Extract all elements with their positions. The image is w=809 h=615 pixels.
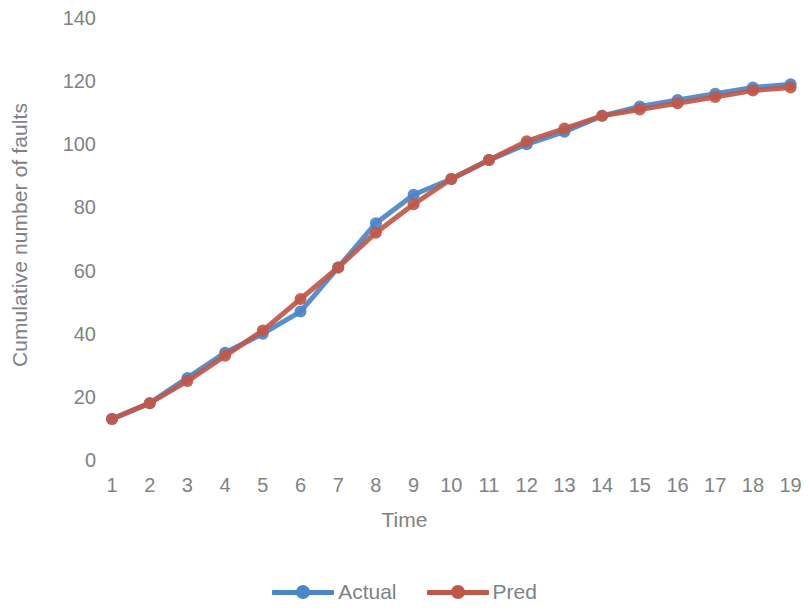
x-axis-tick-label: 18 [742, 474, 764, 497]
data-point-marker [445, 173, 457, 185]
data-point-marker [295, 306, 307, 318]
chart-container: Cumulative number of faults 020406080100… [0, 0, 809, 615]
data-point-marker [219, 350, 231, 362]
data-point-marker [558, 123, 570, 135]
x-axis-tick-label: 6 [295, 474, 306, 497]
legend-item-label: Actual [338, 580, 396, 604]
x-axis-tick-label: 13 [553, 474, 575, 497]
x-axis-title: Time [0, 508, 809, 532]
data-point-marker [144, 397, 156, 409]
x-axis-tick-label: 11 [479, 474, 500, 497]
legend-swatch-icon [427, 584, 489, 600]
x-axis-tick-label: 17 [704, 474, 726, 497]
series-line [112, 87, 791, 419]
x-axis-tick-label: 2 [144, 474, 155, 497]
x-axis-tick-label: 8 [370, 474, 381, 497]
x-axis-tick-label: 5 [257, 474, 268, 497]
data-point-marker [596, 110, 608, 122]
data-point-marker [370, 227, 382, 239]
x-axis-tick-label: 16 [666, 474, 688, 497]
legend-item-label: Pred [493, 580, 537, 604]
x-axis-tick-label: 1 [106, 474, 117, 497]
x-axis-tick-label: 15 [629, 474, 651, 497]
series-actual [106, 78, 797, 425]
x-axis-tick-label: 7 [333, 474, 344, 497]
x-axis-tick-label: 10 [440, 474, 462, 497]
x-axis-tick-label: 14 [591, 474, 613, 497]
chart-legend: ActualPred [0, 580, 809, 604]
legend-item-actual[interactable]: Actual [272, 580, 396, 604]
data-point-marker [709, 91, 721, 103]
data-point-marker [672, 97, 684, 109]
data-point-marker [332, 261, 344, 273]
data-point-marker [634, 104, 646, 116]
data-point-marker [785, 81, 797, 93]
x-axis-tick-label: 19 [779, 474, 801, 497]
series-line [112, 84, 791, 419]
x-axis-tick-label: 12 [516, 474, 538, 497]
data-point-marker [181, 375, 193, 387]
x-axis-tick-label: 9 [408, 474, 419, 497]
legend-item-pred[interactable]: Pred [427, 580, 537, 604]
legend-swatch-icon [272, 584, 334, 600]
series-pred [106, 81, 797, 425]
data-point-marker [295, 293, 307, 305]
data-point-marker [106, 413, 118, 425]
x-axis-tick-label: 4 [220, 474, 231, 497]
data-point-marker [747, 85, 759, 97]
data-point-marker [483, 154, 495, 166]
x-axis-tick-label: 3 [182, 474, 193, 497]
data-point-marker [521, 135, 533, 147]
data-point-marker [257, 325, 269, 337]
data-point-marker [408, 198, 420, 210]
